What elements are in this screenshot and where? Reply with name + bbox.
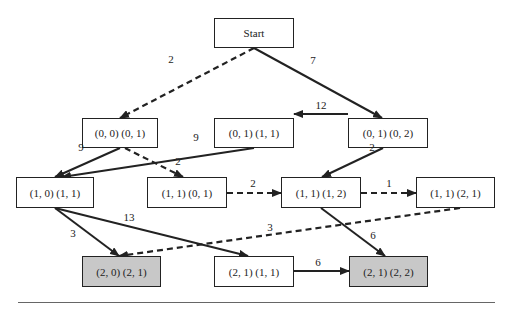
node-label: (1, 1) (0, 1) bbox=[162, 187, 212, 199]
edge-weight-label: 3 bbox=[70, 227, 76, 239]
search-graph-diagram: Start(0, 0) (0, 1)(0, 1) (1, 1)(0, 1) (0… bbox=[0, 0, 509, 309]
edge-start-to-n00_01 bbox=[120, 48, 254, 118]
edge-weight-label: 3 bbox=[267, 221, 273, 233]
edge-n11_21-to-n20_21 bbox=[119, 208, 460, 256]
node-n11_21: (1, 1) (2, 1) bbox=[416, 177, 495, 208]
node-label: (1, 1) (2, 1) bbox=[430, 187, 480, 199]
node-label: (0, 1) (0, 2) bbox=[363, 127, 413, 139]
node-label: (2, 1) (2, 2) bbox=[363, 266, 413, 278]
node-n01_11: (0, 1) (1, 1) bbox=[214, 118, 294, 148]
edge-weight-label: 9 bbox=[193, 131, 199, 143]
node-label: (0, 0) (0, 1) bbox=[95, 127, 145, 139]
edge-weight-label: 6 bbox=[370, 229, 376, 241]
edge-weight-label: 2 bbox=[168, 53, 174, 65]
node-start: Start bbox=[214, 18, 294, 48]
edge-n01_11-to-n10_11 bbox=[62, 148, 254, 177]
edge-weight-label: 12 bbox=[316, 99, 327, 111]
edge-weight-label: 6 bbox=[315, 256, 321, 268]
node-label: (2, 0) (2, 1) bbox=[96, 266, 146, 278]
bottom-divider bbox=[18, 302, 495, 303]
edge-weight-label: 9 bbox=[78, 141, 84, 153]
node-n11_12: (1, 1) (1, 2) bbox=[281, 177, 361, 208]
node-label: (2, 1) (1, 1) bbox=[229, 266, 279, 278]
node-n20_21: (2, 0) (2, 1) bbox=[82, 256, 161, 287]
edge-n10_11-to-n21_11 bbox=[55, 208, 248, 256]
edge-weight-label: 2 bbox=[369, 141, 375, 153]
node-label: (1, 0) (1, 1) bbox=[30, 187, 80, 199]
edge-weight-label: 2 bbox=[175, 155, 181, 167]
node-n11_01: (1, 1) (0, 1) bbox=[147, 177, 227, 208]
node-label: Start bbox=[244, 27, 265, 39]
node-n21_11: (2, 1) (1, 1) bbox=[214, 256, 294, 287]
node-label: (1, 1) (1, 2) bbox=[296, 187, 346, 199]
node-n00_01: (0, 0) (0, 1) bbox=[82, 118, 158, 148]
edge-weight-label: 13 bbox=[124, 211, 135, 223]
node-n10_11: (1, 0) (1, 1) bbox=[16, 177, 94, 208]
edge-weight-label: 2 bbox=[250, 177, 256, 189]
node-n21_22: (2, 1) (2, 2) bbox=[349, 256, 428, 287]
edge-weight-label: 1 bbox=[386, 177, 392, 189]
node-label: (0, 1) (1, 1) bbox=[229, 127, 279, 139]
edge-weight-label: 7 bbox=[310, 54, 316, 66]
node-n01_02: (0, 1) (0, 2) bbox=[348, 118, 428, 148]
